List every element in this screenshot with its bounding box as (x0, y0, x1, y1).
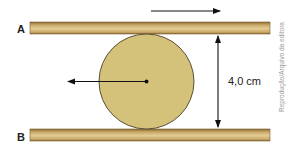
cylinder-center-dot (145, 80, 149, 84)
cylinder-between-planks-diagram: A B 4,0 cm Reprodução/Arquivo da editora (0, 0, 294, 151)
image-credit: Reprodução/Arquivo da editora (278, 22, 286, 112)
plank-a-label: A (17, 23, 25, 35)
plank-b (30, 129, 270, 141)
plank-a (30, 22, 270, 34)
plank-b-label: B (17, 131, 25, 143)
distance-label: 4,0 cm (228, 75, 261, 87)
